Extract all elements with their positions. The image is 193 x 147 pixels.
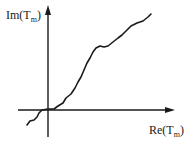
real-axis-label: Re(Tm): [149, 124, 184, 139]
x-label-close: ): [180, 123, 184, 137]
locus-curve: [27, 14, 151, 125]
y-label-main: Im(T: [6, 8, 31, 22]
imaginary-axis-label: Im(Tm): [6, 9, 41, 24]
y-label-close: ): [37, 8, 41, 22]
real-axis-arrowhead-icon: [165, 107, 175, 113]
x-label-main: Re(T: [149, 123, 174, 137]
imaginary-axis-arrowhead-icon: [45, 5, 51, 15]
